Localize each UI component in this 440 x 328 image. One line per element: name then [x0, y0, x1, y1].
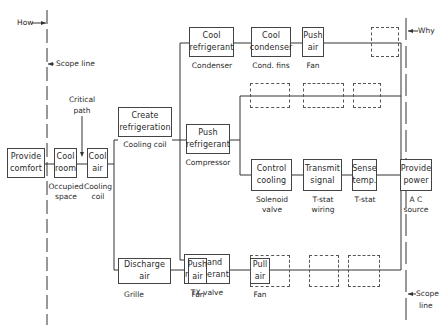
function-label: refrigeration	[119, 122, 170, 134]
function-discharge-air: Discharge air	[118, 258, 171, 284]
component-label: T-stat	[348, 195, 382, 205]
function-label: room	[55, 163, 76, 175]
critical-path-label-2: path	[62, 106, 102, 116]
component-label: Compressor	[182, 158, 234, 168]
component-label: valve	[248, 205, 296, 215]
critical-path-label-1: Critical	[62, 95, 102, 105]
function-label: Create	[131, 110, 158, 122]
component-label: Fan	[184, 290, 212, 300]
function-sense-temp: Sense temp.	[352, 159, 377, 191]
function-provide-comfort: Provide comfort	[7, 148, 45, 178]
scope-line-left-label: Scope line	[56, 59, 95, 69]
function-label: Transmit	[305, 163, 340, 175]
function-label: air	[192, 271, 203, 283]
function-control-cooling: Control cooling	[251, 159, 292, 191]
function-label: refrigerant	[190, 42, 234, 54]
function-cool-room: Cool room	[54, 148, 77, 178]
function-label: Push	[303, 30, 322, 42]
function-label: Discharge	[124, 259, 165, 271]
function-label: comfort	[10, 163, 42, 175]
function-label: Push	[198, 127, 217, 139]
placeholder-box	[353, 83, 381, 108]
component-label: Solenoid	[248, 195, 296, 205]
component-label: Cooling	[80, 182, 116, 192]
component-label: Fan	[300, 61, 326, 71]
component-label: Cond. fins	[247, 61, 295, 71]
function-label: air	[92, 163, 103, 175]
function-label: Cool	[203, 30, 221, 42]
function-label: Provide	[401, 163, 431, 175]
function-push-refrigerant: Push refrigerant	[186, 124, 230, 154]
function-create-refrigeration: Create refrigeration	[118, 107, 172, 137]
function-label: air	[308, 42, 319, 54]
function-label: Cool	[57, 151, 75, 163]
why-label: Why	[418, 26, 435, 36]
function-label: cooling	[257, 175, 286, 187]
function-label: Push	[188, 259, 207, 271]
placeholder-box	[303, 83, 344, 108]
function-cool-refrigerant: Cool refrigerant	[189, 27, 234, 57]
placeholder-box	[348, 255, 380, 287]
function-label: air	[139, 271, 150, 283]
scope-line-right-label-2: line	[419, 301, 433, 311]
function-label: condenser	[250, 42, 293, 54]
component-label: wiring	[300, 205, 346, 215]
function-label: power	[403, 175, 428, 187]
component-label: Fan	[246, 290, 274, 300]
function-cool-condenser: Cool condenser	[251, 27, 291, 57]
placeholder-box	[309, 255, 339, 287]
component-label: A C	[400, 195, 432, 205]
function-label: Sense	[352, 163, 377, 175]
function-label: Cool	[262, 30, 280, 42]
function-push-air-bottom: Push air	[188, 258, 207, 284]
function-push-air-top: Push air	[302, 27, 324, 57]
placeholder-box	[250, 83, 290, 108]
scope-line-right-label-1: Scope	[416, 289, 439, 299]
function-label: temp.	[353, 175, 377, 187]
component-label: coil	[80, 192, 116, 202]
placeholder-box	[371, 27, 399, 57]
component-label: Condenser	[186, 61, 238, 71]
component-label: T-stat	[300, 195, 346, 205]
how-label: How	[17, 18, 33, 28]
function-label: Provide	[11, 151, 41, 163]
placeholder-box	[250, 255, 290, 287]
component-label: source	[400, 205, 432, 215]
function-label: refrigerant	[186, 139, 230, 151]
function-label: Cool	[89, 151, 107, 163]
component-label: Grille	[118, 290, 150, 300]
function-provide-power: Provide power	[400, 159, 432, 191]
component-label: Cooling coil	[114, 140, 176, 150]
function-cool-air: Cool air	[87, 148, 108, 178]
function-transmit-signal: Transmit signal	[303, 159, 342, 191]
function-label: signal	[310, 175, 334, 187]
function-label: Control	[257, 163, 287, 175]
